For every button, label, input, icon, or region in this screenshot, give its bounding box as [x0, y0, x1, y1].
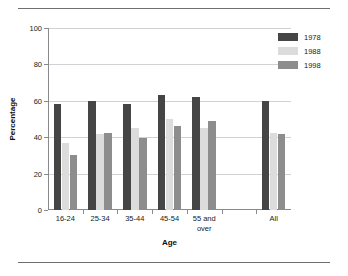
legend-item: 1978	[278, 30, 321, 44]
bar	[278, 134, 286, 210]
bar	[104, 133, 112, 210]
bar	[208, 121, 216, 210]
bars-group	[48, 28, 291, 210]
legend-label: 1998	[304, 61, 321, 70]
y-tick-mark	[44, 64, 48, 65]
y-tick-label: 20	[34, 169, 42, 178]
bar	[192, 97, 200, 210]
bar	[270, 133, 278, 210]
chart-legend: 197819881998	[278, 30, 321, 72]
y-tick-label: 40	[34, 133, 42, 142]
bar	[158, 95, 166, 210]
bar	[62, 143, 70, 210]
bar	[70, 155, 78, 210]
x-tick-label: 45-54	[160, 214, 179, 224]
y-tick-mark	[44, 28, 48, 29]
legend-swatch-icon	[278, 47, 298, 55]
x-axis-title: Age	[48, 238, 291, 247]
legend-swatch-icon	[278, 61, 298, 69]
y-tick-mark	[44, 174, 48, 175]
bar	[54, 104, 62, 210]
y-tick-mark	[44, 101, 48, 102]
legend-swatch-icon	[278, 33, 298, 41]
bar	[131, 128, 139, 210]
bar	[88, 101, 96, 210]
x-tick-label: 16-24	[56, 214, 75, 224]
plot-area: 020406080100	[48, 28, 291, 210]
x-tick-label: All	[269, 214, 277, 224]
bar	[262, 101, 270, 210]
legend-label: 1978	[304, 33, 321, 42]
y-tick-mark	[44, 210, 48, 211]
top-divider-rule	[18, 8, 330, 9]
bottom-divider-rule	[18, 262, 330, 263]
y-axis-title: Percentage	[8, 97, 17, 140]
bar	[96, 134, 104, 210]
bar	[174, 126, 182, 210]
legend-item: 1998	[278, 58, 321, 72]
legend-item: 1988	[278, 44, 321, 58]
x-tick-label: 25-34	[90, 214, 109, 224]
y-tick-label: 100	[29, 24, 42, 33]
y-tick-label: 60	[34, 96, 42, 105]
bar	[139, 138, 147, 210]
y-tick-mark	[44, 137, 48, 138]
bar	[200, 128, 208, 210]
chart-figure: Percentage 020406080100 16-2425-3435-444…	[0, 0, 348, 276]
y-tick-label: 80	[34, 60, 42, 69]
bar	[123, 104, 131, 210]
x-tick-label: 35-44	[125, 214, 144, 224]
x-tick-label: 55 andover	[193, 214, 216, 234]
legend-label: 1988	[304, 47, 321, 56]
y-tick-label: 0	[38, 206, 42, 215]
bar	[166, 119, 174, 210]
